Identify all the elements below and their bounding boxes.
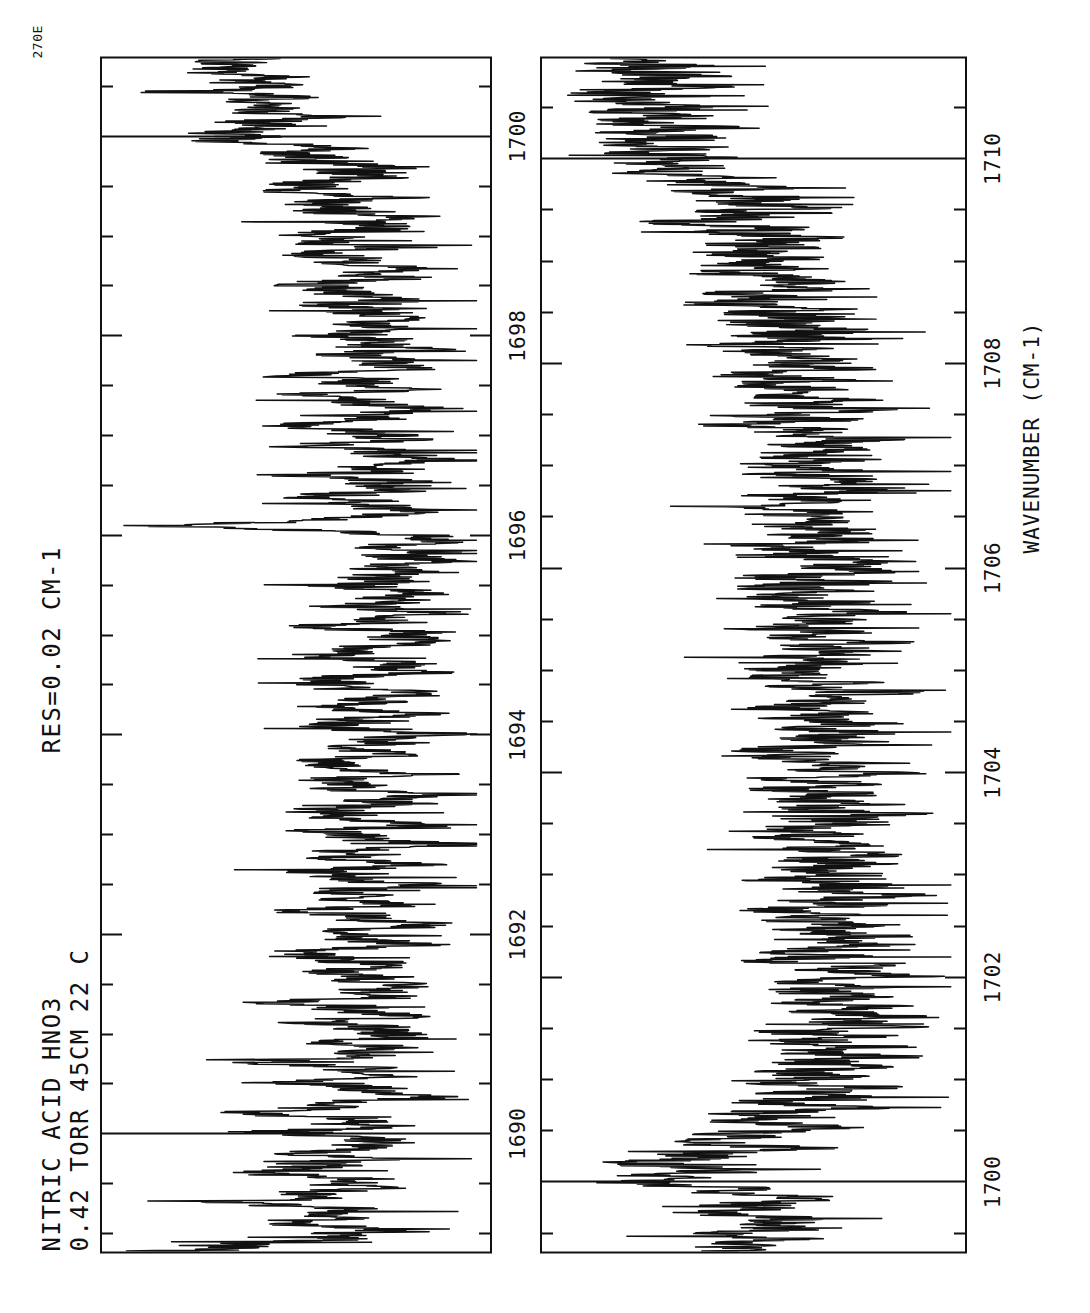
axis-minor-tick xyxy=(479,634,492,636)
axis-minor-tick xyxy=(479,235,492,237)
spectrum-panel-top xyxy=(100,56,492,1253)
axis-minor-tick xyxy=(479,1033,492,1035)
axis-gridline xyxy=(100,135,492,137)
axis-minor-tick xyxy=(540,260,553,262)
axis-minor-tick xyxy=(479,185,492,187)
axis-minor-tick xyxy=(479,484,492,486)
axis-tick-label: 1706 xyxy=(981,534,1005,602)
axis-minor-tick xyxy=(100,484,113,486)
axis-minor-tick xyxy=(100,683,113,685)
axis-major-tick xyxy=(100,334,122,336)
axis-minor-tick xyxy=(954,106,967,108)
axis-minor-tick xyxy=(540,1027,553,1029)
axis-minor-tick xyxy=(100,185,113,187)
axis-gridline xyxy=(100,1132,492,1134)
axis-major-tick xyxy=(470,933,492,935)
axis-major-tick xyxy=(945,567,967,569)
chart-conditions: 0.42 TORR 45CM 22 C xyxy=(66,948,94,1251)
spectrum-panel-bottom xyxy=(540,56,967,1253)
axis-minor-tick xyxy=(954,464,967,466)
axis-minor-tick xyxy=(479,683,492,685)
axis-minor-tick xyxy=(954,260,967,262)
axis-minor-tick xyxy=(540,311,553,313)
axis-minor-tick xyxy=(540,618,553,620)
axis-minor-tick xyxy=(954,873,967,875)
axis-minor-tick xyxy=(479,783,492,785)
axis-minor-tick xyxy=(100,384,113,386)
axis-minor-tick xyxy=(540,822,553,824)
spectrum-trace-top xyxy=(102,58,490,1251)
axis-minor-tick xyxy=(100,883,113,885)
chart-resolution: RES=0.02 CM-1 xyxy=(38,546,66,753)
axis-minor-tick xyxy=(479,284,492,286)
axis-tick-label: 1694 xyxy=(506,700,530,768)
axis-minor-tick xyxy=(100,1033,113,1035)
axis-minor-tick xyxy=(954,618,967,620)
axis-minor-tick xyxy=(479,1232,492,1234)
axis-tick-label: 1698 xyxy=(506,301,530,369)
axis-minor-tick xyxy=(100,235,113,237)
axis-minor-tick xyxy=(954,1078,967,1080)
axis-major-tick xyxy=(540,567,562,569)
axis-major-tick xyxy=(100,733,122,735)
axis-minor-tick xyxy=(479,1082,492,1084)
axis-major-tick xyxy=(540,771,562,773)
axis-minor-tick xyxy=(100,1182,113,1184)
axis-major-tick xyxy=(945,976,967,978)
axis-minor-tick xyxy=(540,464,553,466)
axis-minor-tick xyxy=(479,85,492,87)
axis-minor-tick xyxy=(100,434,113,436)
axis-minor-tick xyxy=(479,883,492,885)
axis-minor-tick xyxy=(479,384,492,386)
axis-tick-label: 1708 xyxy=(981,329,1005,397)
axis-minor-tick xyxy=(100,833,113,835)
axis-minor-tick xyxy=(479,983,492,985)
axis-minor-tick xyxy=(954,208,967,210)
axis-minor-tick xyxy=(100,284,113,286)
spectrum-trace-bottom xyxy=(542,58,965,1251)
axis-major-tick xyxy=(945,771,967,773)
axis-tick-label: 1692 xyxy=(506,900,530,968)
axis-minor-tick xyxy=(100,983,113,985)
axis-minor-tick xyxy=(954,720,967,722)
axis-minor-tick xyxy=(100,783,113,785)
axis-minor-tick xyxy=(540,1078,553,1080)
chart-title: NITRIC ACID HNO3 xyxy=(38,996,66,1251)
axis-minor-tick xyxy=(954,1129,967,1131)
axis-major-tick xyxy=(470,334,492,336)
axis-minor-tick xyxy=(479,584,492,586)
axis-gridline xyxy=(540,1180,967,1182)
axis-minor-tick xyxy=(540,1129,553,1131)
axis-minor-tick xyxy=(954,822,967,824)
axis-minor-tick xyxy=(540,515,553,517)
axis-minor-tick xyxy=(100,634,113,636)
axis-tick-label: 1702 xyxy=(981,943,1005,1011)
axis-minor-tick xyxy=(540,106,553,108)
axis-minor-tick xyxy=(954,925,967,927)
axis-minor-tick xyxy=(100,1082,113,1084)
axis-minor-tick xyxy=(100,85,113,87)
axis-major-tick xyxy=(945,362,967,364)
x-axis-title: WAVENUMBER (CM-1) xyxy=(1020,321,1044,553)
axis-tick-label: 1696 xyxy=(506,501,530,569)
axis-minor-tick xyxy=(540,1232,553,1234)
axis-tick-label: 1710 xyxy=(981,124,1005,192)
axis-tick-label: 1690 xyxy=(506,1099,530,1167)
axis-minor-tick xyxy=(479,833,492,835)
axis-minor-tick xyxy=(954,1232,967,1234)
axis-major-tick xyxy=(540,976,562,978)
axis-tick-label: 1700 xyxy=(981,1147,1005,1215)
axis-tick-label: 1704 xyxy=(981,738,1005,806)
axis-major-tick xyxy=(100,933,122,935)
axis-minor-tick xyxy=(100,584,113,586)
axis-minor-tick xyxy=(954,669,967,671)
axis-major-tick xyxy=(100,534,122,536)
axis-minor-tick xyxy=(540,925,553,927)
axis-gridline xyxy=(540,157,967,159)
spectrum-figure: 270E NITRIC ACID HNO3 0.42 TORR 45CM 22 … xyxy=(0,0,1090,1313)
plot-corner-tag: 270E xyxy=(30,25,45,58)
axis-minor-tick xyxy=(954,311,967,313)
axis-minor-tick xyxy=(954,515,967,517)
axis-minor-tick xyxy=(540,873,553,875)
axis-major-tick xyxy=(470,733,492,735)
